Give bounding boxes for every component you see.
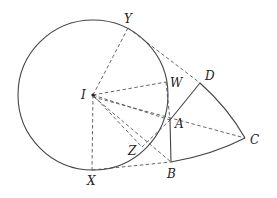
label-X: X <box>86 174 96 188</box>
geometry-diagram: Y I W D A C Z B X <box>0 0 277 198</box>
segment-IA <box>93 95 170 120</box>
segment-AB <box>170 120 171 162</box>
segment-IC <box>93 97 245 138</box>
center-point-I <box>91 93 94 96</box>
segment-IY <box>93 28 128 95</box>
segment-IW <box>93 82 166 95</box>
label-Y: Y <box>124 12 133 26</box>
label-I: I <box>80 88 86 102</box>
arc-DC <box>200 83 245 138</box>
arc-BC <box>171 138 245 162</box>
diagram-canvas: Y I W D A C Z B X <box>0 0 277 198</box>
label-D: D <box>204 69 215 83</box>
label-W: W <box>170 76 184 90</box>
label-Z: Z <box>127 144 137 158</box>
segment-IX <box>92 95 93 170</box>
label-A: A <box>174 117 184 131</box>
segment-ZA <box>142 120 170 147</box>
label-C: C <box>250 133 259 147</box>
label-B: B <box>166 167 176 181</box>
segment-YD <box>128 28 200 83</box>
